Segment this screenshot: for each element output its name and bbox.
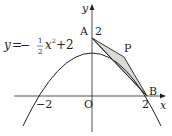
origin-label: O	[84, 98, 93, 111]
x-tick-2: 2	[142, 98, 149, 111]
fraction-numerator: 1	[38, 37, 42, 45]
parabola-diagram: y = − 1 2 x 2 +2 A 2 P B y x O −2 2	[0, 0, 172, 136]
equation-var: x	[45, 38, 52, 52]
equation-tail: +2	[56, 38, 74, 52]
point-b-label: B	[149, 85, 157, 98]
y-axis-label: y	[81, 2, 89, 15]
x-tick-neg-2: −2	[36, 98, 52, 111]
y-axis-arrow-icon	[90, 4, 95, 10]
equation-minus: −	[20, 38, 30, 52]
y-tick-2: 2	[95, 25, 102, 38]
x-axis-arrow-icon	[160, 94, 166, 99]
point-a-label: A	[79, 25, 89, 38]
fraction-denominator: 2	[38, 48, 42, 56]
x-axis-label: x	[160, 99, 167, 112]
point-p-label: P	[124, 42, 132, 55]
equation-lhs: y	[3, 38, 11, 52]
